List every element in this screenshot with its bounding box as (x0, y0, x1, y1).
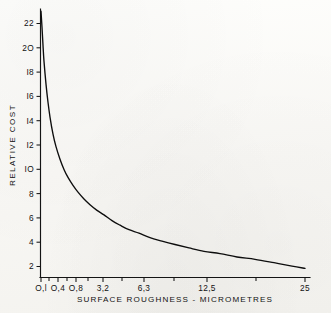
y-tick-label: IO (25, 164, 35, 174)
y-tick-label: 6 (29, 213, 34, 223)
x-tick-label: 6,3 (138, 283, 151, 293)
x-tick-label: O,4 (51, 283, 65, 293)
y-axis-tick-labels: 2 4 6 8 IO I2 I4 I6 I8 2O 22 (22, 18, 34, 271)
x-axis-tick-labels: O,l O,4 O,8 3,2 6,3 12,5 25 (35, 283, 310, 293)
x-tick-label: 25 (300, 283, 310, 293)
x-tick-label: O,l (35, 283, 47, 293)
y-tick-label: I2 (26, 140, 34, 150)
data-curve-relative-cost (41, 11, 305, 268)
y-tick-label: I4 (26, 116, 34, 126)
x-tick-label: 3,2 (97, 283, 110, 293)
y-axis-ticks (37, 24, 41, 267)
x-tick-label: 12,5 (198, 283, 216, 293)
y-tick-label: 2 (29, 261, 34, 271)
y-tick-label: I8 (26, 67, 34, 77)
y-tick-label: 22 (24, 18, 34, 28)
y-axis-title: RELATIVE COST (8, 104, 17, 186)
y-tick-label: 8 (29, 189, 34, 199)
chart-plot: 2 4 6 8 IO I2 I4 I6 I8 2O 22 (0, 0, 331, 313)
y-tick-label: 4 (29, 237, 34, 247)
x-axis-ticks (41, 278, 305, 283)
figure-container: 2 4 6 8 IO I2 I4 I6 I8 2O 22 (0, 0, 331, 313)
y-tick-label: I6 (26, 91, 34, 101)
x-tick-label: O,8 (69, 283, 83, 293)
x-axis-title: SURFACE ROUGHNESS - MICROMETRES (77, 295, 273, 304)
y-tick-label: 2O (22, 43, 34, 53)
